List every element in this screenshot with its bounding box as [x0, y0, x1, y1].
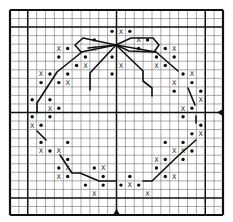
cross-symbol: X [172, 79, 177, 87]
cross-symbol: X [65, 164, 70, 172]
dot-symbol-icon [57, 55, 60, 58]
dot-symbol-icon [66, 158, 69, 161]
dot-symbol-icon [146, 38, 149, 41]
dot-symbol-icon [93, 38, 96, 41]
cross-symbol: X [172, 147, 177, 155]
dot-symbol-icon [190, 107, 193, 110]
wreath-left-low-line [37, 131, 46, 140]
dot-symbol-icon [84, 183, 87, 186]
dot-symbol-icon [164, 64, 167, 67]
cross-symbol: X [154, 62, 159, 70]
dot-symbol-icon [66, 175, 69, 178]
dot-symbol-icon [84, 55, 87, 58]
dot-symbol-icon [128, 30, 131, 33]
cross-symbol: X [30, 122, 35, 130]
dot-symbol-icon [155, 55, 158, 58]
cross-symbol: X [101, 164, 106, 172]
wreath-right-mid-line [188, 88, 195, 105]
grid-lines [10, 10, 223, 215]
dot-symbol-icon [57, 166, 60, 169]
dot-symbol-icon [164, 175, 167, 178]
cross-symbol: X [128, 181, 133, 189]
dot-symbol-icon [181, 158, 184, 161]
dot-symbol-icon [101, 183, 104, 186]
dot-symbol-icon [48, 72, 51, 75]
cross-symbol: X [92, 45, 97, 53]
dot-symbol-icon [39, 81, 42, 84]
bottom-center-arrow-icon [114, 209, 120, 214]
dot-symbol-icon [39, 124, 42, 127]
cross-symbol: X [190, 70, 195, 78]
cross-symbol: X [57, 45, 62, 53]
dot-symbol-icon [181, 115, 184, 118]
dot-symbol-icon [172, 89, 175, 92]
cross-symbol: X [181, 105, 186, 113]
dot-symbol-icon [164, 158, 167, 161]
dot-symbol-icon [164, 47, 167, 50]
dot-symbol-icon [66, 141, 69, 144]
cross-symbol: X [48, 105, 53, 113]
cross-symbol: X [172, 173, 177, 181]
dot-symbol-icon [101, 175, 104, 178]
dot-symbol-icon [110, 30, 113, 33]
right-center-arrow-icon [217, 110, 222, 116]
dot-symbol-icon [190, 132, 193, 135]
dot-symbol-icon [30, 115, 33, 118]
dot-symbol-icon [39, 141, 42, 144]
dot-symbol-icon [190, 81, 193, 84]
dot-symbol-icon [110, 72, 113, 75]
dot-symbol-icon [93, 166, 96, 169]
dot-symbol-icon [181, 72, 184, 75]
dot-symbol-icon [199, 124, 202, 127]
dot-symbol-icon [66, 47, 69, 50]
dot-symbol-icon [190, 149, 193, 152]
dot-symbol-icon [57, 81, 60, 84]
dot-symbol-icon [128, 175, 131, 178]
cross-symbol: X [119, 28, 124, 36]
dot-symbol-icon [164, 141, 167, 144]
cross-symbol: X [199, 130, 204, 138]
dot-symbol-icon [199, 89, 202, 92]
cross-symbol: X [181, 147, 186, 155]
dot-symbol-icon [48, 149, 51, 152]
dot-symbol-icon [181, 141, 184, 144]
dot-symbol-icon [30, 98, 33, 101]
dot-symbol-icon [48, 115, 51, 118]
cross-symbol: X [119, 62, 124, 70]
dot-symbol-icon [137, 183, 140, 186]
cross-symbol: X [83, 62, 88, 70]
dot-symbol-icon [119, 183, 122, 186]
cross-symbol: X [39, 147, 44, 155]
cross-symbol: X [172, 45, 177, 53]
cross-symbol: X [65, 79, 70, 87]
dot-symbol-icon [66, 72, 69, 75]
dot-symbol-icon [48, 98, 51, 101]
cross-symbol: X [92, 190, 97, 198]
cross-symbol: X [145, 190, 150, 198]
dot-symbol-icon [57, 107, 60, 110]
cross-symbol: X [154, 156, 159, 164]
dot-symbol-icon [155, 166, 158, 169]
cross-symbol: X [199, 96, 204, 104]
cross-symbol: X [57, 173, 62, 181]
dot-symbol-icon [75, 64, 78, 67]
cross-stitch-chart: XXXXXXXXXXXXXXXXXXXXXXXXXXXXX [0, 0, 233, 222]
dot-symbol-icon [110, 55, 113, 58]
cross-symbol: X [57, 147, 62, 155]
cross-symbol: X [39, 70, 44, 78]
dot-symbol-icon [137, 47, 140, 50]
cross-symbol: X [136, 36, 141, 44]
dot-symbol-icon [172, 55, 175, 58]
